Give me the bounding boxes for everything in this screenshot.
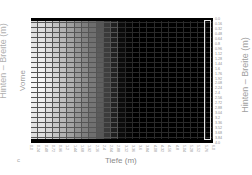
x-tick-label: 2.64 xyxy=(109,145,113,152)
x-tick-label: 2.4 xyxy=(102,145,106,150)
x-tick-label: 3.6 xyxy=(138,145,142,150)
y-tick-label: 3.52 xyxy=(215,126,222,130)
y-tick-label: 1.12 xyxy=(215,52,222,56)
left-axis-label: Hinten – Breite (m) xyxy=(0,16,8,106)
x-axis-label: Tiefe (m) xyxy=(105,156,137,165)
y-tick-label: 0.48 xyxy=(215,32,222,36)
y-tick-label: 1.28 xyxy=(215,57,222,61)
x-tick-label: 3.12 xyxy=(124,145,128,152)
y-tick-label: 0.96 xyxy=(215,47,222,51)
heatmap-grid xyxy=(31,18,213,143)
y-tick-label: 3.04 xyxy=(215,111,222,115)
highlight-box xyxy=(204,20,211,140)
heatmap-top-band xyxy=(31,18,213,21)
x-tick-label: 5.52 xyxy=(196,145,200,152)
y-tick-label: 1.6 xyxy=(215,67,220,71)
x-tick-label: 1.2 xyxy=(65,145,69,150)
y-tick-label: 2.88 xyxy=(215,106,222,110)
panel-label: c xyxy=(17,157,20,163)
left-sub-label: Vorne xyxy=(18,61,27,101)
y-tick-label: 2.24 xyxy=(215,86,222,90)
heatmap-bottom-band xyxy=(31,139,213,143)
x-tick-label: 1.44 xyxy=(73,145,77,152)
x-tick-label: 4.56 xyxy=(167,145,171,152)
y-tick-label: 3.2 xyxy=(215,116,220,120)
y-tick-label: 2.4 xyxy=(215,91,220,95)
y-tick-label: 1.76 xyxy=(215,72,222,76)
y-tick-label: 1.44 xyxy=(215,62,222,66)
y-tick-label: 3.68 xyxy=(215,131,222,135)
x-tick-label: 4.8 xyxy=(175,145,179,150)
x-tick-label: 0.96 xyxy=(58,145,62,152)
x-tick-label: 4.32 xyxy=(160,145,164,152)
y-tick-label: 2.72 xyxy=(215,101,222,105)
x-tick-label: 4.08 xyxy=(153,145,157,152)
right-axis-label: Hinten – Breite (m) xyxy=(240,30,250,120)
x-tick-label: 1.92 xyxy=(87,145,91,152)
x-tick-label: 0.0 xyxy=(29,145,33,150)
x-tick-label: 0.24 xyxy=(36,145,40,152)
y-tick-label: 0.32 xyxy=(215,27,222,31)
x-tick-label: 2.88 xyxy=(116,145,120,152)
x-tick-label: 5.04 xyxy=(182,145,186,152)
x-tick-label: 6.0 xyxy=(211,145,215,150)
y-tick-label: 0.8 xyxy=(215,42,220,46)
y-tick-label: 1.92 xyxy=(215,77,222,81)
y-tick-label: 0.16 xyxy=(215,22,222,26)
x-tick-label: 5.76 xyxy=(204,145,208,152)
y-tick-label: 4.0 xyxy=(215,141,220,145)
y-tick-label: 2.08 xyxy=(215,81,222,85)
x-tick-label: 1.68 xyxy=(80,145,84,152)
x-tick-label: 0.48 xyxy=(44,145,48,152)
x-tick-label: 0.72 xyxy=(51,145,55,152)
x-tick-label: 3.84 xyxy=(145,145,149,152)
x-tick-label: 2.16 xyxy=(95,145,99,152)
y-tick-label: 3.36 xyxy=(215,121,222,125)
y-tick-label: 0.64 xyxy=(215,37,222,41)
y-tick-label: 0.0 xyxy=(215,17,220,21)
y-tick-label: 2.56 xyxy=(215,96,222,100)
x-tick-label: 5.28 xyxy=(189,145,193,152)
x-tick-label: 3.36 xyxy=(131,145,135,152)
y-tick-label: 3.84 xyxy=(215,136,222,140)
